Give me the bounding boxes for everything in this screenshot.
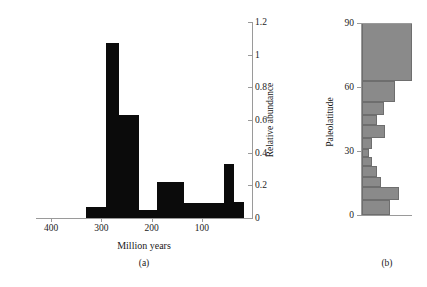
x-tick-label: 200 <box>144 223 158 233</box>
y-tick-label: 1 <box>255 50 260 60</box>
y-tick-mark <box>357 23 361 24</box>
y-tick-label: 90 <box>345 18 355 28</box>
y-tick-label: 1.2 <box>255 17 267 27</box>
histogram-bar <box>174 182 184 218</box>
histogram-bar <box>362 81 395 102</box>
y-tick-label: 0.2 <box>255 180 267 190</box>
histogram-bar <box>362 149 369 158</box>
panel-b-y-axis-title: Paleolatitude <box>325 97 335 147</box>
histogram-bar <box>362 187 399 200</box>
y-tick-label: 0 <box>349 210 354 220</box>
histogram-bar <box>362 115 377 126</box>
histogram-bar <box>234 202 244 218</box>
y-tick-mark <box>357 151 361 152</box>
panel-a-y-axis-line <box>252 22 253 219</box>
histogram-bar <box>362 177 381 188</box>
x-tick-mark <box>51 218 52 222</box>
y-tick-mark <box>248 22 252 23</box>
histogram-bar <box>119 115 139 218</box>
histogram-bar <box>362 166 377 177</box>
y-tick-mark <box>248 218 252 219</box>
histogram-bar <box>86 207 106 218</box>
histogram-bar <box>157 182 175 218</box>
panel-b-top-axis-line <box>361 23 412 24</box>
x-tick-label: 300 <box>94 223 108 233</box>
y-tick-mark <box>248 185 252 186</box>
figure-container: 400300200100 00.20.40.60.811.2 Million y… <box>0 0 427 287</box>
histogram-bar <box>184 203 224 218</box>
panel-a-y-axis-title: Relative abundance <box>265 83 275 158</box>
x-tick-mark <box>152 218 153 222</box>
y-tick-mark <box>248 153 252 154</box>
x-tick-mark <box>101 218 102 222</box>
y-tick-mark <box>357 87 361 88</box>
histogram-bar <box>139 210 157 218</box>
histogram-bar <box>224 164 234 218</box>
y-tick-mark <box>248 87 252 88</box>
y-tick-label: 0 <box>255 213 260 223</box>
y-tick-label: 60 <box>345 82 355 92</box>
panel-a-bars <box>36 22 252 218</box>
histogram-bar <box>362 23 412 81</box>
histogram-bar <box>362 157 372 166</box>
y-tick-label: 30 <box>345 146 355 156</box>
panel-b-plot-area <box>362 23 412 215</box>
histogram-bar <box>362 102 384 115</box>
panel-a-plot-area <box>36 22 252 218</box>
y-tick-mark <box>248 120 252 121</box>
panel-b: 0306090 Paleolatitude (b) <box>300 0 427 287</box>
y-tick-mark <box>248 55 252 56</box>
panel-a-caption: (a) <box>36 258 252 268</box>
histogram-bar <box>106 43 119 218</box>
histogram-bar <box>362 138 372 149</box>
histogram-bar <box>362 125 385 138</box>
x-tick-mark <box>202 218 203 222</box>
panel-a-x-axis-title: Million years <box>36 240 252 251</box>
y-tick-mark <box>357 215 361 216</box>
panel-a: 400300200100 00.20.40.60.811.2 Million y… <box>0 0 300 287</box>
histogram-bar <box>362 200 390 215</box>
x-tick-label: 400 <box>44 223 58 233</box>
panel-b-caption: (b) <box>362 258 412 268</box>
panel-a-x-axis-line <box>36 218 252 219</box>
panel-b-bottom-axis-line <box>361 215 412 216</box>
x-tick-label: 100 <box>195 223 209 233</box>
panel-b-y-axis-line <box>361 23 362 216</box>
